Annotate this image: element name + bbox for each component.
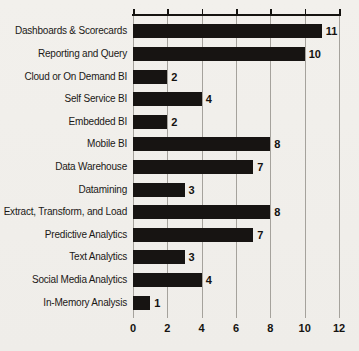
bar-row: Text Analytics3 xyxy=(0,246,339,269)
x-tick-label: 0 xyxy=(130,321,136,335)
category-label-text: Extract, Transform, and Load xyxy=(4,206,127,218)
bar-track: 3 xyxy=(133,183,339,197)
x-tick-label: 2 xyxy=(164,321,170,335)
bar-track: 4 xyxy=(133,92,339,106)
bar xyxy=(133,183,185,197)
x-tick-label: 8 xyxy=(267,321,273,335)
category-label-text: Predictive Analytics xyxy=(45,229,127,241)
bar-row: In-Memory Analysis1 xyxy=(0,291,339,314)
bar-track: 2 xyxy=(133,70,339,84)
bar xyxy=(133,115,167,129)
bar xyxy=(133,70,167,84)
category-label: Embedded BI xyxy=(0,116,133,128)
category-label-text: Social Media Analytics xyxy=(32,274,127,286)
bar-track: 10 xyxy=(133,47,339,61)
x-tick-label: 12 xyxy=(333,321,345,335)
category-label-text: Self Service BI xyxy=(64,93,127,105)
value-label: 3 xyxy=(189,250,195,264)
category-label-text: Datamining xyxy=(78,184,127,196)
x-tick-label: 10 xyxy=(299,321,311,335)
bar xyxy=(133,24,322,38)
bar xyxy=(133,137,270,151)
value-label: 2 xyxy=(171,70,177,84)
bar-row: Cloud or On Demand BI2 xyxy=(0,65,339,88)
bar-row: Dashboards & Scorecards11 xyxy=(0,20,339,43)
bar-chart: Dashboards & Scorecards11Reporting and Q… xyxy=(0,0,359,351)
bar-track: 11 xyxy=(133,24,339,38)
category-label: Datamining xyxy=(0,184,133,196)
bar-rows: Dashboards & Scorecards11Reporting and Q… xyxy=(0,15,339,317)
category-label: Predictive Analytics xyxy=(0,229,133,241)
bar xyxy=(133,228,253,242)
bar xyxy=(133,205,270,219)
category-label: Text Analytics xyxy=(0,251,133,263)
value-label: 8 xyxy=(274,205,280,219)
category-label: Social Media Analytics xyxy=(0,274,133,286)
category-label: Self Service BI xyxy=(0,93,133,105)
bar-row: Extract, Transform, and Load8 xyxy=(0,201,339,224)
category-label: Extract, Transform, and Load xyxy=(0,206,133,218)
bar-track: 7 xyxy=(133,228,339,242)
category-label: Reporting and Query xyxy=(0,48,133,60)
bar xyxy=(133,47,305,61)
bar-row: Embedded BI2 xyxy=(0,110,339,133)
value-label: 10 xyxy=(309,47,321,61)
bar xyxy=(133,250,185,264)
bar-track: 3 xyxy=(133,250,339,264)
x-tick-label: 4 xyxy=(199,321,205,335)
value-label: 4 xyxy=(206,92,212,106)
category-label: Dashboards & Scorecards xyxy=(0,25,133,37)
bar xyxy=(133,273,202,287)
bar-track: 8 xyxy=(133,137,339,151)
category-label: Data Warehouse xyxy=(0,161,133,173)
bar-track: 1 xyxy=(133,296,339,310)
value-label: 11 xyxy=(326,24,338,38)
x-axis-line xyxy=(132,14,341,16)
bar-row: Mobile BI8 xyxy=(0,133,339,156)
category-label: Mobile BI xyxy=(0,138,133,150)
x-tick-label: 6 xyxy=(233,321,239,335)
gridline xyxy=(339,16,340,318)
bar-row: Data Warehouse7 xyxy=(0,156,339,179)
bar xyxy=(133,160,253,174)
value-label: 8 xyxy=(274,137,280,151)
category-label-text: Dashboards & Scorecards xyxy=(15,25,127,37)
value-label: 1 xyxy=(154,296,160,310)
category-label-text: Reporting and Query xyxy=(38,48,127,60)
bar-track: 4 xyxy=(133,273,339,287)
bar-track: 2 xyxy=(133,115,339,129)
value-label: 7 xyxy=(257,228,263,242)
category-label-text: Cloud or On Demand BI xyxy=(24,71,127,83)
bar-row: Reporting and Query10 xyxy=(0,43,339,66)
value-label: 4 xyxy=(206,273,212,287)
bar-row: Social Media Analytics4 xyxy=(0,269,339,292)
value-label: 3 xyxy=(189,183,195,197)
category-label-text: Text Analytics xyxy=(69,251,127,263)
category-label-text: Mobile BI xyxy=(87,138,127,150)
category-label-text: In-Memory Analysis xyxy=(43,297,127,309)
bar-row: Self Service BI4 xyxy=(0,88,339,111)
x-axis-tick-labels: 024681012 xyxy=(133,321,339,335)
bar-row: Datamining3 xyxy=(0,178,339,201)
value-label: 7 xyxy=(257,160,263,174)
category-label-text: Data Warehouse xyxy=(55,161,127,173)
category-label: Cloud or On Demand BI xyxy=(0,71,133,83)
category-label: In-Memory Analysis xyxy=(0,297,133,309)
bar-track: 8 xyxy=(133,205,339,219)
bar xyxy=(133,296,150,310)
category-label-text: Embedded BI xyxy=(69,116,127,128)
bar-row: Predictive Analytics7 xyxy=(0,223,339,246)
bar-track: 7 xyxy=(133,160,339,174)
value-label: 2 xyxy=(171,115,177,129)
bar xyxy=(133,92,202,106)
